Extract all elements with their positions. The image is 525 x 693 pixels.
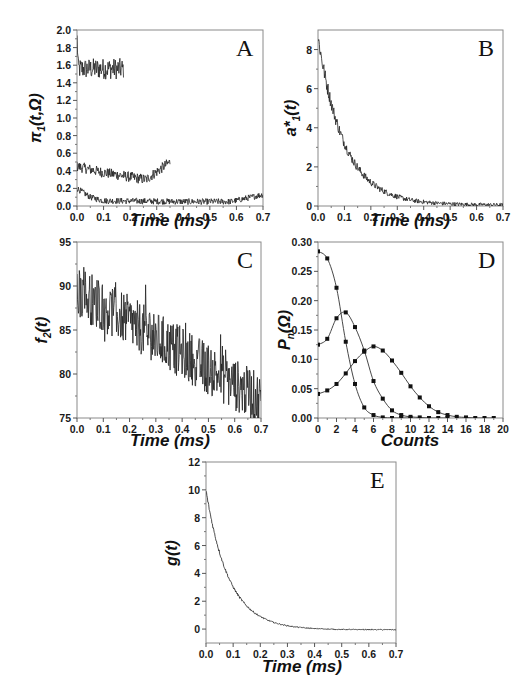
x-tick-label: 0.7: [389, 648, 404, 660]
panel-d-label: D: [478, 247, 495, 273]
data-point: [399, 413, 403, 417]
x-tick-label: 0.7: [254, 423, 269, 435]
panel-c-x-axis-label: Time (ms): [130, 431, 210, 450]
x-tick-label: 0.6: [469, 211, 484, 223]
data-point: [325, 256, 329, 260]
x-tick-label: 2: [334, 423, 340, 435]
data-point: [335, 286, 339, 290]
panel-e-y-axis-label: g(t): [163, 540, 180, 567]
data-point: [372, 413, 376, 417]
y-tick-label: 0.2: [56, 182, 71, 194]
y-tick-label: 2: [306, 161, 312, 173]
x-tick-label: 0.6: [229, 211, 244, 223]
y-tick-label: 95: [59, 236, 71, 248]
panel-c: 0.00.10.20.30.40.50.60.77580859095 C Tim…: [33, 236, 268, 450]
x-tick-label: 0.6: [362, 648, 377, 660]
data-point: [381, 397, 385, 401]
data-point: [335, 316, 339, 320]
panel-a-x-axis-label: Time (ms): [130, 211, 210, 230]
series-trace: [206, 491, 396, 630]
x-tick-label: 0.0: [199, 648, 214, 660]
y-tick-label: 1.8: [56, 42, 71, 54]
y-tick-label: 12: [188, 456, 200, 468]
data-point: [344, 371, 348, 375]
data-point: [316, 392, 320, 396]
panel-e: 0.00.10.20.30.40.50.60.7024681012 E Time…: [163, 456, 403, 676]
x-tick-label: 0.6: [227, 423, 242, 435]
data-point: [362, 405, 366, 409]
data-point: [390, 359, 394, 363]
series-trace: [77, 267, 261, 422]
panel-e-label: E: [370, 467, 385, 493]
data-point: [325, 388, 329, 392]
x-tick-label: 0.0: [70, 211, 85, 223]
data-point: [436, 410, 440, 414]
series-curve: [318, 251, 411, 418]
y-tick-label: 0.10: [292, 353, 313, 365]
panel-e-x-axis-label: Time (ms): [262, 657, 342, 676]
series-curve: [318, 346, 494, 418]
data-point: [427, 404, 431, 408]
y-tick-label: 1.0: [56, 112, 71, 124]
y-tick-label: 0.00: [292, 412, 313, 424]
panel-d-x-axis-label: Counts: [381, 431, 440, 450]
data-point: [362, 350, 366, 354]
data-point: [344, 310, 348, 314]
y-tick-label: 2: [194, 595, 200, 607]
y-tick-label: 0.20: [292, 295, 313, 307]
y-tick-label: 2.0: [56, 24, 71, 36]
data-point: [335, 382, 339, 386]
y-tick-label: 0.0: [56, 200, 71, 212]
x-tick-label: 0.0: [311, 211, 326, 223]
figure: 0.00.10.20.30.40.50.60.70.00.20.40.60.81…: [0, 0, 525, 693]
y-tick-label: 10: [188, 484, 200, 496]
series-trace: [77, 187, 263, 205]
data-point: [316, 249, 320, 253]
x-tick-label: 0.7: [256, 211, 271, 223]
data-point: [381, 349, 385, 353]
x-tick-label: 0: [315, 423, 321, 435]
y-tick-label: 1.6: [56, 59, 71, 71]
x-tick-label: 0.1: [96, 423, 111, 435]
y-tick-label: 0: [306, 200, 312, 212]
data-point: [353, 359, 357, 363]
y-tick-label: 4: [306, 122, 312, 134]
y-tick-label: 80: [59, 368, 71, 380]
data-point: [399, 371, 403, 375]
series-trace: [77, 36, 124, 80]
y-tick-label: 6: [194, 540, 200, 552]
panel-b-x-axis-label: Time (ms): [370, 211, 450, 230]
y-tick-label: 0.4: [56, 165, 71, 177]
panel-a: 0.00.10.20.30.40.50.60.70.00.20.40.60.81…: [27, 24, 270, 230]
panel-b-axes-frame: [318, 30, 503, 206]
panel-b-label: B: [478, 35, 494, 61]
x-tick-label: 14: [442, 423, 454, 435]
y-tick-label: 0.25: [292, 265, 313, 277]
series-trace: [318, 40, 503, 207]
x-tick-label: 16: [460, 423, 472, 435]
panel-b-y-axis-label: a*1(t): [282, 100, 302, 137]
data-point: [372, 379, 376, 383]
y-tick-label: 90: [59, 280, 71, 292]
x-tick-label: 0.1: [337, 211, 352, 223]
data-point: [344, 340, 348, 344]
data-point: [446, 413, 450, 417]
x-tick-label: 0.7: [496, 211, 511, 223]
x-tick-label: 0.1: [226, 648, 241, 660]
data-point: [390, 408, 394, 412]
data-point: [325, 337, 329, 341]
y-tick-label: 1.2: [56, 94, 71, 106]
panel-e-axes-frame: [206, 462, 396, 643]
y-tick-label: 0.6: [56, 147, 71, 159]
panel-b: 0.00.10.20.30.40.50.60.702468 B Time (ms…: [282, 30, 510, 230]
x-tick-label: 0.1: [96, 211, 111, 223]
y-tick-label: 8: [194, 512, 200, 524]
panel-c-y-axis-label: f2(t): [33, 317, 53, 344]
y-tick-label: 75: [59, 412, 71, 424]
panel-d-plot-area: 024681012141618200.000.050.100.150.200.2…: [292, 236, 509, 435]
x-tick-label: 20: [497, 423, 509, 435]
x-tick-label: 18: [479, 423, 491, 435]
x-tick-label: 6: [371, 423, 377, 435]
y-tick-label: 1.4: [56, 77, 71, 89]
panel-a-label: A: [236, 35, 254, 61]
